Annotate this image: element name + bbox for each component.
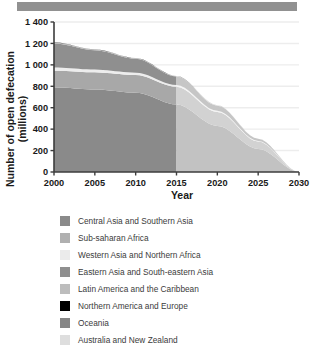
y-tick-label: 0 bbox=[43, 167, 48, 177]
x-tick-label: 2000 bbox=[44, 178, 64, 188]
legend-item[interactable]: Sub-saharan Africa bbox=[0, 229, 314, 246]
legend-color-swatch bbox=[60, 216, 70, 226]
legend-item[interactable]: Eastern Asia and South-eastern Asia bbox=[0, 263, 314, 280]
y-tick-label: 400 bbox=[33, 124, 48, 134]
legend-color-swatch bbox=[60, 301, 70, 311]
chart-container: 02004006008001 0001 2001 400 20002005201… bbox=[0, 14, 314, 204]
x-tick-label: 2005 bbox=[85, 178, 105, 188]
legend-item-label: Oceania bbox=[78, 318, 109, 328]
legend-item[interactable]: Northern America and Europe bbox=[0, 297, 314, 314]
x-axis-title: Year bbox=[171, 189, 193, 201]
legend-item[interactable]: Australia and New Zealand bbox=[0, 331, 314, 348]
top-gray-bar bbox=[17, 2, 297, 11]
legend-item[interactable]: Oceania bbox=[0, 314, 314, 331]
legend-item-label: Northern America and Europe bbox=[78, 301, 188, 311]
legend-color-swatch bbox=[60, 318, 70, 328]
x-tick-label: 2020 bbox=[207, 178, 227, 188]
y-tick-label: 1 400 bbox=[25, 17, 48, 27]
y-tick-label: 1 200 bbox=[25, 39, 48, 49]
legend-item[interactable]: Central Asia and Southern Asia bbox=[0, 212, 314, 229]
legend-item-label: Sub-saharan Africa bbox=[78, 233, 149, 243]
legend-item-label: Central Asia and Southern Asia bbox=[78, 216, 193, 226]
legend-color-swatch bbox=[60, 267, 70, 277]
y-tick-label: 1 000 bbox=[25, 60, 48, 70]
y-tick-label: 200 bbox=[33, 146, 48, 156]
x-tick-label: 2025 bbox=[248, 178, 268, 188]
legend-color-swatch bbox=[60, 250, 70, 260]
x-tick-label: 2030 bbox=[289, 178, 309, 188]
legend-color-swatch bbox=[60, 284, 70, 294]
legend-color-swatch bbox=[60, 233, 70, 243]
legend-item[interactable]: Western Asia and Northern Africa bbox=[0, 246, 314, 263]
area-series-projected bbox=[177, 76, 300, 172]
legend-item-label: Latin America and the Caribbean bbox=[78, 284, 199, 294]
legend-item-label: Australia and New Zealand bbox=[78, 335, 178, 345]
legend-item-label: Western Asia and Northern Africa bbox=[78, 250, 201, 260]
x-tick-labels: 2000200520102015202020252030 bbox=[44, 178, 309, 188]
chart-legend: Central Asia and Southern AsiaSub-sahara… bbox=[0, 212, 314, 348]
legend-item[interactable]: Latin America and the Caribbean bbox=[0, 280, 314, 297]
y-axis-title-line2: (millions) bbox=[16, 96, 28, 143]
legend-color-swatch bbox=[60, 335, 70, 345]
y-tick-labels: 02004006008001 0001 2001 400 bbox=[25, 17, 48, 177]
x-tick-label: 2015 bbox=[166, 178, 186, 188]
y-axis-title-line1: Number of open defecation bbox=[4, 51, 16, 187]
y-tick-label: 600 bbox=[33, 103, 48, 113]
open-defecation-area-chart: 02004006008001 0001 2001 400 20002005201… bbox=[0, 14, 314, 204]
area-series-historical bbox=[54, 42, 177, 172]
legend-item-label: Eastern Asia and South-eastern Asia bbox=[78, 267, 213, 277]
y-tick-label: 800 bbox=[33, 82, 48, 92]
x-tick-label: 2010 bbox=[125, 178, 145, 188]
